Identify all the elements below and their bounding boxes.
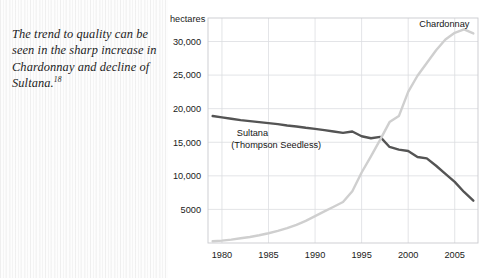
- figure-page: The trend to quality can be seen in the …: [0, 0, 494, 278]
- y-gridlines: [208, 42, 478, 210]
- y-tick-label: 5000: [181, 205, 201, 215]
- y-tick-label: 25,000: [173, 70, 201, 80]
- x-tick-label: 1985: [258, 250, 278, 260]
- x-tick-label: 1995: [351, 250, 371, 260]
- y-tick-label: 15,000: [173, 138, 201, 148]
- y-axis-unit-label: hectares: [170, 14, 206, 24]
- y-tick-label: 30,000: [173, 37, 201, 47]
- x-tick-label: 1990: [305, 250, 325, 260]
- caption-paragraph: The trend to quality can be seen in the …: [12, 26, 162, 91]
- caption-panel: The trend to quality can be seen in the …: [0, 0, 168, 278]
- series-annotation-label: Chardonnay: [419, 19, 469, 29]
- y-tick-label: 10,000: [173, 171, 201, 181]
- series-annotations: ChardonnaySultana(Thompson Seedless): [231, 19, 470, 150]
- y-axis-tick-labels: 500010,00015,00020,00025,00030,000: [173, 37, 201, 215]
- series-annotation-label: (Thompson Seedless): [231, 140, 321, 150]
- x-tick-label: 2005: [444, 250, 464, 260]
- x-tick-label: 1980: [212, 250, 232, 260]
- caption-body: The trend to quality can be seen in the …: [12, 27, 157, 90]
- line-chart: 500010,00015,00020,00025,00030,000 19801…: [168, 0, 494, 278]
- y-tick-label: 20,000: [173, 104, 201, 114]
- x-axis-tick-labels: 198019851990199520002005: [212, 250, 465, 260]
- series-annotation-label: Sultana: [237, 128, 269, 138]
- chart-panel: 500010,00015,00020,00025,00030,000 19801…: [168, 0, 494, 278]
- footnote-marker: 18: [54, 75, 62, 84]
- x-tick-label: 2000: [398, 250, 418, 260]
